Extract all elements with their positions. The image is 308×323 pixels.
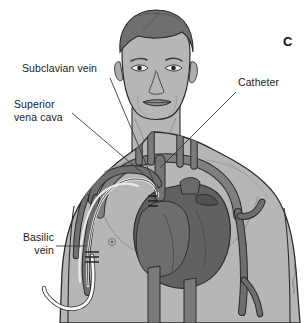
label-svc-line2: vena cava <box>14 111 63 123</box>
label-svc-line1: Superior <box>14 98 55 110</box>
label-superior-vena-cava: Superiorvena cava <box>14 98 63 123</box>
panel-letter: C <box>283 34 292 49</box>
head <box>115 10 198 120</box>
label-basilic-vein: Basilicvein <box>10 231 54 256</box>
label-basilic-line2: vein <box>34 244 54 256</box>
label-catheter: Catheter <box>238 76 279 89</box>
label-subclavian-vein: Subclavian vein <box>22 62 97 75</box>
label-basilic-line1: Basilic <box>23 231 54 243</box>
anatomical-illustration <box>0 0 308 323</box>
figure-panel: Subclavian vein Superiorvena cava Basili… <box>0 0 308 323</box>
